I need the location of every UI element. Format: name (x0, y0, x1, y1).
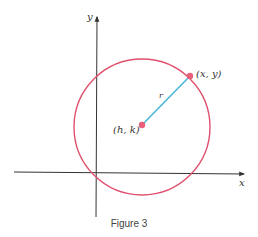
radius-label: r (159, 91, 164, 100)
y-axis-label: y (86, 11, 93, 22)
radius-segment (142, 76, 190, 125)
point-label: (x, y) (196, 68, 222, 79)
x-axis (14, 172, 244, 174)
circle-point (187, 73, 193, 79)
center-point (139, 122, 145, 128)
y-axis (96, 17, 97, 217)
x-axis-label: x (239, 177, 245, 188)
circle-diagram: y x (h, k) (x, y) r (0, 0, 258, 237)
figure-caption: Figure 3 (0, 218, 258, 229)
center-label: (h, k) (113, 124, 140, 135)
